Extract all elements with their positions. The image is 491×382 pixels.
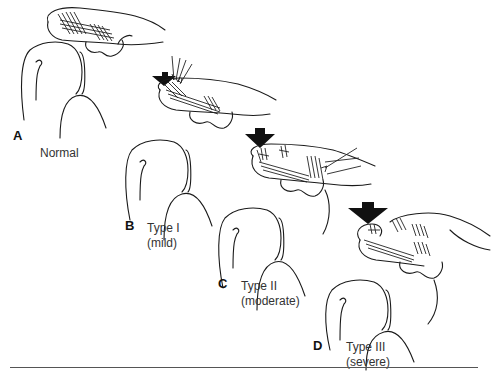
panel-letter-b: B [125, 218, 134, 233]
caption-d-line1: Type III [346, 340, 385, 354]
caption-c-line2: (moderate) [241, 294, 300, 308]
caption-b-line2: (mild) [147, 236, 177, 250]
compression-arrow-large [348, 202, 388, 224]
shoulder-illustration-type-iii [310, 200, 491, 370]
panel-letter-c: C [218, 276, 227, 291]
panel-d-type-iii: D Type III (severe) [310, 200, 491, 370]
bottom-divider [10, 367, 478, 368]
caption-b-line1: Type I [147, 221, 180, 235]
panel-caption-d: Type III (severe) [346, 340, 390, 370]
panel-caption-a: Normal [40, 146, 79, 161]
panel-caption-b: Type I (mild) [147, 221, 180, 251]
caption-c-line1: Type II [241, 279, 277, 293]
panel-caption-c: Type II (moderate) [241, 279, 300, 309]
panel-letter-d: D [313, 338, 322, 353]
panel-letter-a: A [13, 128, 22, 143]
